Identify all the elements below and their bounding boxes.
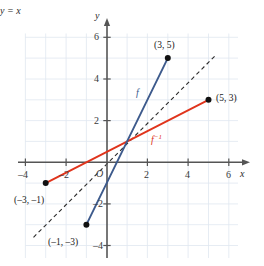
- x-tick-label-neg4: –4: [18, 170, 28, 180]
- data-point-marker-3-5: [165, 55, 171, 61]
- grid-lines: [25, 34, 238, 259]
- y-tick-label-6: 6: [94, 32, 99, 42]
- curve-label-f-inverse: f−1: [151, 134, 162, 145]
- x-tick-label-2: 2: [144, 170, 149, 180]
- origin-label: O: [96, 169, 103, 179]
- point-label-neg3-neg1: (–3, –1): [14, 196, 44, 206]
- y-tick-label-neg4: –4: [93, 241, 103, 251]
- data-point-marker-5-3: [206, 97, 212, 103]
- y-tick-label-4: 4: [94, 74, 99, 84]
- x-tick-label-4: 4: [185, 170, 190, 180]
- x-tick-label-6: 6: [226, 170, 231, 180]
- data-point-marker-neg1-neg3: [83, 222, 89, 228]
- curve-label-f-inverse-exponent: −1: [154, 133, 162, 141]
- data-point-marker-neg3-neg1: [43, 180, 49, 186]
- point-label-3-5: (3, 5): [154, 41, 175, 51]
- coordinate-plane-svg: [0, 0, 264, 266]
- point-label-neg1-neg3: (–1, –3): [48, 238, 78, 248]
- y-tick-label-2: 2: [94, 116, 99, 126]
- y-axis-arrow: [104, 18, 110, 26]
- y-axis-label: y: [95, 11, 99, 21]
- curve-label-f: f: [136, 88, 139, 98]
- x-tick-label-neg2: –2: [59, 170, 69, 180]
- x-axis-label: x: [240, 169, 244, 179]
- graph-figure: x y O –4 –2 2 4 6 6 4 2 –2 –4 (3, 5) (5,…: [0, 0, 264, 266]
- point-label-5-3: (5, 3): [216, 94, 237, 104]
- x-axis-arrow: [242, 159, 250, 165]
- y-tick-label-neg2: –2: [93, 199, 103, 209]
